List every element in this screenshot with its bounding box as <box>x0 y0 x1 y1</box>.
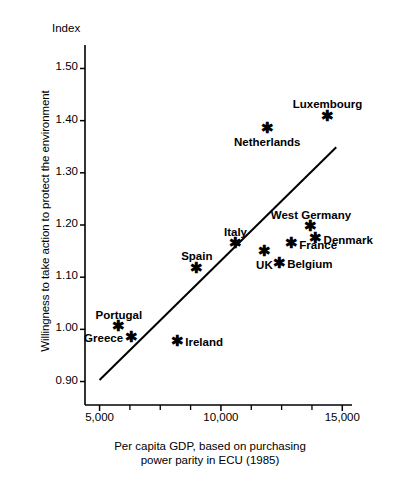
x-axis-title: Per capita GDP, based on purchasing powe… <box>60 440 360 467</box>
data-point-label: Portugal <box>95 310 142 322</box>
x-axis-tick-label: 5,000 <box>70 411 130 423</box>
data-point-marker: ✱ <box>125 328 138 345</box>
y-axis-tick-label: 1.40 <box>42 114 78 126</box>
data-point-label: Luxembourg <box>293 99 363 111</box>
data-point-marker: ✱ <box>171 332 184 349</box>
data-point-label: Greece <box>84 333 123 345</box>
y-axis-tick-label: 1.50 <box>42 61 78 73</box>
data-point-marker: ✱ <box>273 254 286 271</box>
y-axis-tick-label: 1.10 <box>42 270 78 282</box>
data-point-label: Netherlands <box>234 137 300 149</box>
y-axis-tick-label: 0.90 <box>42 375 78 387</box>
y-axis-tick-label: 1.00 <box>42 322 78 334</box>
y-axis-tick-label: 1.30 <box>42 166 78 178</box>
x-axis-tick-label: 10,000 <box>191 411 251 423</box>
data-point-label: Ireland <box>185 337 223 349</box>
data-point-marker: ✱ <box>285 234 298 251</box>
x-axis-title-line1: Per capita GDP, based on purchasing <box>60 440 360 454</box>
x-axis-title-line2: power parity in ECU (1985) <box>60 454 360 468</box>
data-point-label: France <box>299 240 337 252</box>
data-point-marker: ✱ <box>261 119 274 136</box>
x-axis-tick-label: 15,000 <box>312 411 372 423</box>
scatter-chart: Willingness to take action to protect th… <box>0 0 400 491</box>
data-point-label: Belgium <box>287 259 332 271</box>
data-point-marker: ✱ <box>258 242 271 259</box>
data-point-label: Spain <box>181 251 212 263</box>
data-point-label: Italy <box>224 227 247 239</box>
data-point-label: UK <box>256 260 273 272</box>
y-axis-tick-label: 1.20 <box>42 218 78 230</box>
data-point-label: West Germany <box>271 210 351 222</box>
